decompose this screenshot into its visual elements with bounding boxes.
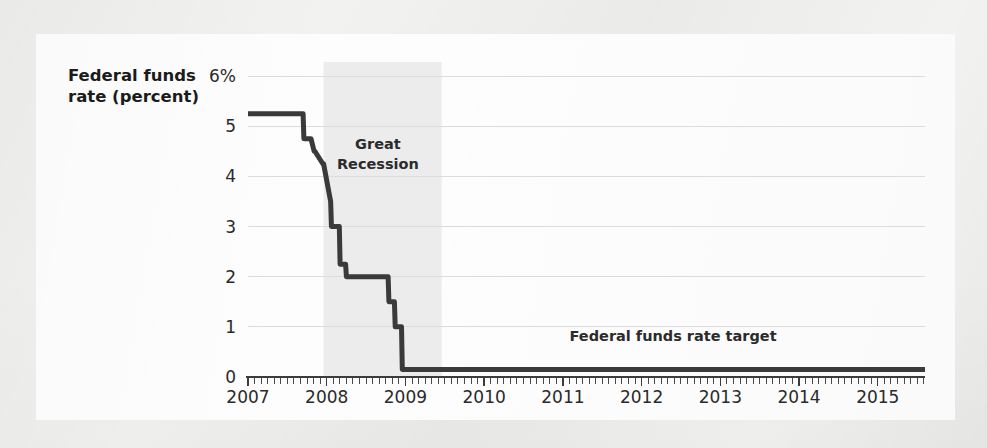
x-tick-label-2008: 2008	[305, 387, 348, 407]
annotation-great-recession-line1: Great	[355, 136, 401, 152]
y-axis-title-line1: Federal funds	[68, 66, 196, 85]
x-tick-label-2015: 2015	[856, 387, 899, 407]
x-tick-label-2013: 2013	[699, 387, 742, 407]
y-axis-tick-label-layer: 0123456%	[209, 66, 236, 387]
y-tick-label-2: 2	[225, 267, 236, 287]
y-tick-label-0: 0	[225, 367, 236, 387]
chart-svg: 0123456% 2007200820092010201120122013201…	[0, 0, 987, 448]
x-tick-label-2009: 2009	[384, 387, 427, 407]
x-tick-label-2007: 2007	[226, 387, 269, 407]
x-tick-label-2014: 2014	[777, 387, 820, 407]
x-tick-label-2012: 2012	[620, 387, 663, 407]
x-axis-minor-tick-layer	[248, 377, 924, 386]
y-axis-title-layer: Federal fundsrate (percent)	[68, 66, 199, 106]
y-tick-label-1: 1	[225, 317, 236, 337]
annotation-great-recession-line2: Recession	[337, 156, 419, 172]
y-tick-label-3: 3	[225, 217, 236, 237]
recession-shading-layer	[324, 62, 442, 377]
recession-band	[324, 62, 442, 377]
y-tick-label-4: 4	[225, 166, 236, 186]
y-axis-title-line2: rate (percent)	[68, 87, 199, 106]
x-axis-tick-label-layer: 200720082009201020112012201320142015	[226, 387, 899, 407]
annotation-federal-funds-rate-target: Federal funds rate target	[570, 328, 777, 344]
y-tick-label-6: 6%	[209, 66, 236, 86]
y-tick-label-5: 5	[225, 116, 236, 136]
x-tick-label-2011: 2011	[541, 387, 584, 407]
federal-funds-rate-chart: 0123456% 2007200820092010201120122013201…	[0, 0, 987, 448]
x-tick-label-2010: 2010	[463, 387, 506, 407]
